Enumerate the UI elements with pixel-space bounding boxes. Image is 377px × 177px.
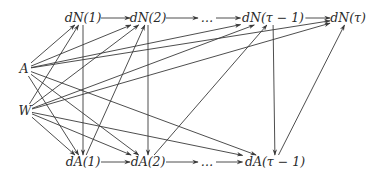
node-dn1: dN(1) <box>65 12 102 25</box>
edge-w-to-dat1 <box>32 112 243 155</box>
node-dn2: dN(2) <box>130 12 167 25</box>
edge-a-to-da2 <box>31 74 139 155</box>
node-da1: dA(1) <box>66 156 101 169</box>
edge-da2-to-dnt1 <box>154 25 267 155</box>
node-da2: dA(2) <box>131 156 166 169</box>
node-dnt1: dN(τ − 1) <box>242 12 304 25</box>
edge-w-to-dn1 <box>29 25 78 104</box>
edge-w-to-dnt1 <box>32 25 254 108</box>
edge-a-to-dnt1 <box>31 25 241 68</box>
edge-dnt1-to-dat1 <box>273 25 275 155</box>
edge-da1-to-dn2 <box>86 25 145 155</box>
diagram-edges <box>0 0 377 177</box>
node-dndots: … <box>201 12 214 25</box>
causal-diagram: dN(1)dN(2)…dN(τ − 1)dN(τ)AWdA(1)dA(2)…dA… <box>0 0 377 177</box>
node-dnt: dN(τ) <box>330 12 366 25</box>
edge-w-to-dnt <box>32 23 330 109</box>
node-dat1: dA(τ − 1) <box>245 156 305 169</box>
node-dadots: … <box>201 156 214 169</box>
edge-a-to-dnt <box>31 21 330 68</box>
edge-dat1-to-dnt <box>279 25 345 155</box>
node-w: W <box>19 105 32 118</box>
edge-a-to-dat1 <box>31 72 256 155</box>
node-a: A <box>19 63 28 76</box>
edge-w-to-da2 <box>32 114 131 155</box>
